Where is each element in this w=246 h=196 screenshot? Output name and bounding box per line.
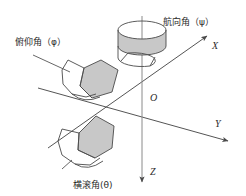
pitch-spiral-ribbon [62, 60, 118, 100]
leader-line-group [33, 55, 72, 169]
roll-leader-line [62, 160, 72, 169]
y-axis-line [38, 88, 228, 141]
origin-label: O [150, 92, 157, 103]
x-axis-label: X [211, 40, 219, 51]
z-axis-label: Z [150, 166, 156, 177]
roll-angle-label: 横滚角(θ) [73, 179, 113, 190]
diagram-canvas: 航向角（ψ） 俯仰角（φ） 横滚角(θ) X Y Z O [0, 0, 246, 196]
attitude-angle-figure: 航向角（ψ） 俯仰角（φ） 横滚角(θ) X Y Z O [0, 0, 246, 196]
y-axis-label: Y [215, 118, 222, 129]
roll-spiral-ribbon [58, 116, 114, 167]
yaw-angle-label: 航向角（ψ） [163, 16, 214, 27]
pitch-leader-line [33, 55, 70, 72]
pitch-angle-label: 俯仰角（φ） [15, 36, 66, 47]
